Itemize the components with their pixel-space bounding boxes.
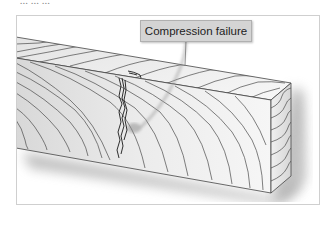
callout-label: Compression failure [140, 20, 252, 42]
